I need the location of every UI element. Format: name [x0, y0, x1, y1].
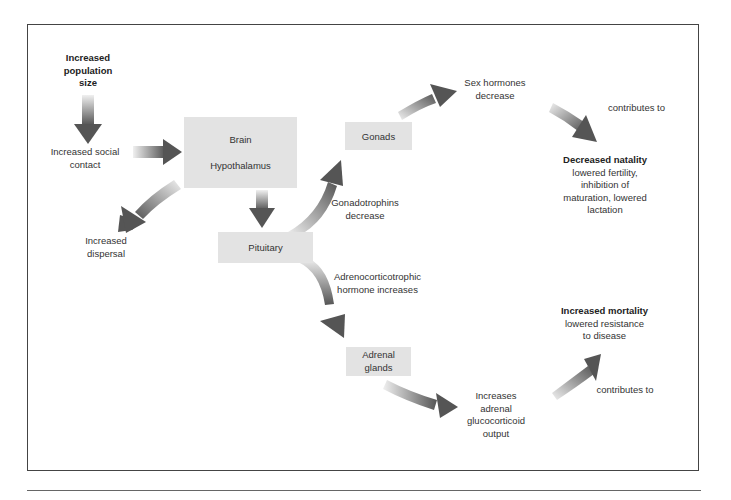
social-contact-line-1: Increased social: [42, 146, 128, 159]
natality-detail-1: lowered fertility,: [555, 167, 655, 180]
mortality-detail-2: to disease: [552, 330, 657, 343]
mortality-detail-1: lowered resistance: [552, 318, 657, 331]
sex-hormones-line-1: Sex hormones: [455, 77, 535, 90]
adrenal-line-2: glands: [365, 362, 393, 375]
contributes-to-text-2: contributes to: [596, 384, 653, 395]
label-contributes-to-mortality: contributes to: [585, 384, 665, 397]
hypothalamus-label: Hypothalamus: [210, 160, 271, 171]
brain-label: Brain: [229, 134, 251, 145]
arrow-population-to-contact: [74, 95, 102, 144]
gonadotrophins-line-1: Gonadotrophins: [325, 197, 405, 210]
mortality-title: Increased mortality: [552, 305, 657, 318]
arrow-adrenal-to-glucocorticoid: [383, 380, 458, 418]
population-line-1: Increased: [58, 52, 118, 65]
natality-detail-2: inhibition of: [555, 179, 655, 192]
box-gonads: Gonads: [345, 122, 412, 150]
arrow-gonads-to-sex-hormones: [398, 84, 457, 120]
arrow-brain-to-dispersal: [118, 180, 181, 233]
node-glucocorticoid-output: Increases adrenal glucocorticoid output: [456, 390, 536, 440]
glucocorticoid-line-2: adrenal: [456, 403, 536, 416]
box-brain-hypothalamus: Brain Hypothalamus: [184, 117, 297, 188]
pituitary-label: Pituitary: [248, 242, 282, 253]
glucocorticoid-line-3: glucocorticoid: [456, 415, 536, 428]
node-sex-hormones-decrease: Sex hormones decrease: [455, 77, 535, 102]
node-increased-population-size: Increased population size: [58, 52, 118, 90]
node-decreased-natality: Decreased natality lowered fertility, in…: [555, 154, 655, 217]
label-acth-increases: Adrenocorticotrophic hormone increases: [325, 271, 430, 296]
arrow-brain-to-pituitary: [249, 190, 275, 228]
adrenal-line-1: Adrenal: [362, 349, 395, 362]
node-increased-mortality: Increased mortality lowered resistance t…: [552, 305, 657, 343]
glucocorticoid-line-4: output: [456, 428, 536, 441]
natality-detail-3: maturation, lowered: [555, 192, 655, 205]
population-line-2: population: [58, 65, 118, 78]
social-contact-line-2: contact: [42, 159, 128, 172]
natality-title: Decreased natality: [555, 154, 655, 167]
contributes-to-text-1: contributes to: [608, 102, 665, 113]
dispersal-line-1: Increased: [76, 235, 136, 248]
node-increased-dispersal: Increased dispersal: [76, 235, 136, 260]
box-pituitary: Pituitary: [218, 232, 313, 263]
arrow-contact-to-brain: [133, 139, 182, 165]
gonadotrophins-line-2: decrease: [325, 210, 405, 223]
acth-line-2: hormone increases: [325, 284, 430, 297]
acth-line-1: Adrenocorticotrophic: [325, 271, 430, 284]
gonads-label: Gonads: [362, 131, 395, 142]
natality-detail-4: lactation: [555, 204, 655, 217]
node-increased-social-contact: Increased social contact: [42, 146, 128, 171]
arrow-pituitary-to-adrenal: [298, 258, 345, 338]
population-line-3: size: [58, 77, 118, 90]
label-contributes-to-natality: contributes to: [585, 102, 665, 115]
label-gonadotrophins-decrease: Gonadotrophins decrease: [325, 197, 405, 222]
sex-hormones-line-2: decrease: [455, 90, 535, 103]
glucocorticoid-line-1: Increases: [456, 390, 536, 403]
dispersal-line-2: dispersal: [76, 248, 136, 261]
box-adrenal-glands: Adrenal glands: [346, 347, 411, 376]
